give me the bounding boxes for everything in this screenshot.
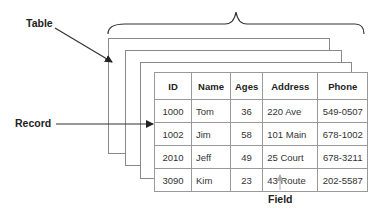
field-label: Field [268, 193, 293, 205]
table-arrow-icon [55, 28, 112, 62]
record-label: Record [15, 117, 51, 129]
table-brace-icon [108, 12, 364, 34]
table-label: Table [26, 17, 53, 29]
annotation-overlay [0, 0, 378, 214]
